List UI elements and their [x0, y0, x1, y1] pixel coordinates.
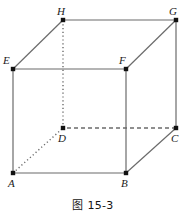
vertex-label-f: F: [119, 55, 126, 66]
vertex-point-b: [124, 171, 128, 175]
edge-b-c: [126, 128, 176, 173]
vertex-point-g: [174, 18, 178, 22]
vertex-label-a: A: [8, 178, 15, 189]
vertex-point-c: [174, 126, 178, 130]
edge-a-d: [13, 128, 63, 173]
figure-container: ABCDEFGH 图 15-3: [0, 0, 186, 220]
edge-f-g: [126, 20, 176, 69]
vertex-point-e: [11, 67, 15, 71]
vertex-point-d: [61, 126, 65, 130]
vertex-label-c: C: [171, 133, 178, 144]
vertex-label-e: E: [3, 55, 10, 66]
edge-e-h: [13, 20, 63, 69]
vertex-point-h: [61, 18, 65, 22]
cube-diagram: [0, 0, 186, 196]
vertex-label-h: H: [57, 6, 65, 17]
vertex-point-f: [124, 67, 128, 71]
vertex-point-a: [11, 171, 15, 175]
figure-caption: 图 15-3: [0, 199, 186, 212]
vertex-label-g: G: [169, 6, 177, 17]
cube-edges: [13, 20, 176, 173]
vertex-label-b: B: [121, 178, 128, 189]
vertex-label-d: D: [58, 133, 66, 144]
